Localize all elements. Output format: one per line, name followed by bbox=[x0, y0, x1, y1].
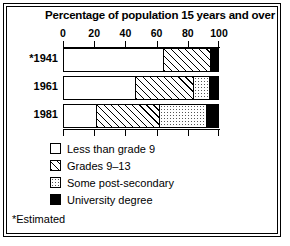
chart-footnote: *Estimated bbox=[12, 213, 65, 225]
legend-label: Some post-secondary bbox=[67, 177, 174, 189]
bar-track bbox=[63, 48, 219, 72]
legend-swatch-icon bbox=[50, 160, 61, 171]
bar-row: 1961 bbox=[63, 76, 219, 100]
legend-item: Less than grade 9 bbox=[50, 140, 174, 157]
legend-swatch-icon bbox=[50, 143, 61, 154]
category-label-1961: 1961 bbox=[34, 80, 58, 92]
legend-item: University degree bbox=[50, 191, 174, 208]
x-tick-mark-0 bbox=[63, 129, 64, 136]
bar-segment bbox=[206, 105, 218, 127]
legend-swatch-icon bbox=[50, 177, 61, 188]
x-tick-label-40: 40 bbox=[120, 27, 132, 39]
bar-track bbox=[63, 104, 219, 128]
bar-row: 1981 bbox=[63, 104, 219, 128]
legend-label: Less than grade 9 bbox=[67, 143, 155, 155]
bar-segment bbox=[210, 49, 218, 71]
bar-segment bbox=[135, 77, 194, 99]
x-tick-label-100: 100 bbox=[210, 27, 228, 39]
x-tick-mark-80 bbox=[188, 129, 189, 136]
category-label-1981: 1981 bbox=[34, 108, 58, 120]
bar-segment bbox=[96, 105, 159, 127]
x-axis-tick-labels: 020406080100 bbox=[63, 27, 219, 39]
x-tick-label-0: 0 bbox=[60, 27, 66, 39]
legend-item: Grades 9–13 bbox=[50, 157, 174, 174]
bar-track bbox=[63, 76, 219, 100]
bar-segment bbox=[209, 77, 218, 99]
x-tick-label-60: 60 bbox=[151, 27, 163, 39]
bar-segment bbox=[64, 49, 163, 71]
x-tick-label-80: 80 bbox=[182, 27, 194, 39]
bar-segment bbox=[193, 77, 208, 99]
x-tick-mark-20 bbox=[94, 129, 95, 136]
x-tick-mark-40 bbox=[125, 129, 126, 136]
legend-label: Grades 9–13 bbox=[67, 160, 131, 172]
bar-segment bbox=[64, 105, 96, 127]
x-tick-mark-60 bbox=[157, 129, 158, 136]
chart-legend: Less than grade 9Grades 9–13Some post-se… bbox=[50, 140, 174, 208]
x-axis-ticks-bottom bbox=[63, 129, 219, 136]
bar-segment bbox=[159, 105, 205, 127]
bar-row: *1941 bbox=[63, 48, 219, 72]
legend-label: University degree bbox=[67, 194, 153, 206]
legend-swatch-icon bbox=[50, 194, 61, 205]
bars-container: *194119611981 bbox=[63, 48, 219, 128]
bar-segment bbox=[64, 77, 135, 99]
chart-title: Percentage of population 15 years and ov… bbox=[0, 9, 290, 21]
category-label-1941: *1941 bbox=[29, 52, 58, 64]
x-tick-label-20: 20 bbox=[88, 27, 100, 39]
bar-segment bbox=[163, 49, 211, 71]
legend-item: Some post-secondary bbox=[50, 174, 174, 191]
x-tick-mark-100 bbox=[218, 129, 219, 136]
